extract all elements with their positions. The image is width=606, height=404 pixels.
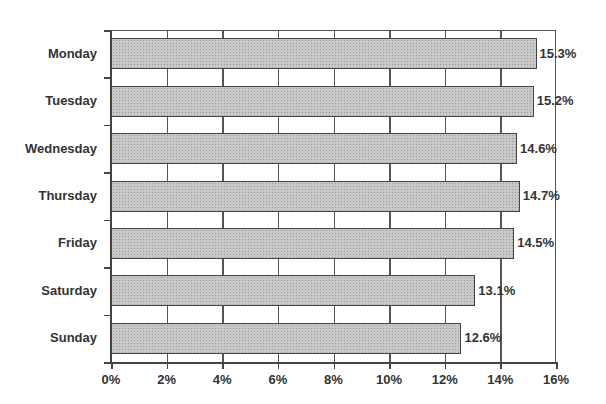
x-tick-label: 2%	[137, 372, 197, 387]
x-tick-label: 4%	[192, 372, 252, 387]
x-tick-label: 8%	[304, 372, 364, 387]
bar-wednesday	[111, 133, 517, 164]
category-label: Saturday	[0, 283, 97, 298]
x-tick-label: 16%	[526, 372, 586, 387]
value-label: 15.2%	[537, 93, 574, 108]
category-label: Friday	[0, 235, 97, 250]
x-tick-label: 12%	[415, 372, 475, 387]
bar-friday	[111, 228, 514, 259]
bar-saturday	[111, 275, 475, 306]
x-tick-label: 6%	[248, 372, 308, 387]
category-label: Sunday	[0, 330, 97, 345]
value-label: 14.5%	[517, 235, 554, 250]
category-label: Monday	[0, 46, 97, 61]
category-label: Wednesday	[0, 141, 97, 156]
value-label: 14.6%	[520, 141, 557, 156]
y-axis	[110, 30, 112, 364]
x-tick-label: 0%	[81, 372, 141, 387]
x-tick-label: 10%	[359, 372, 419, 387]
value-label: 12.6%	[464, 330, 501, 345]
category-label: Thursday	[0, 188, 97, 203]
x-tick-label: 14%	[470, 372, 530, 387]
value-label: 14.7%	[523, 188, 560, 203]
category-label: Tuesday	[0, 93, 97, 108]
bar-chart: 15.3%15.2%14.6%14.7%14.5%13.1%12.6% 0%2%…	[0, 0, 606, 404]
value-label: 15.3%	[540, 46, 577, 61]
bar-tuesday	[111, 86, 534, 117]
bar-thursday	[111, 181, 520, 212]
x-axis	[104, 362, 557, 364]
bar-sunday	[111, 323, 461, 354]
value-label: 13.1%	[478, 283, 515, 298]
bar-monday	[111, 38, 537, 69]
